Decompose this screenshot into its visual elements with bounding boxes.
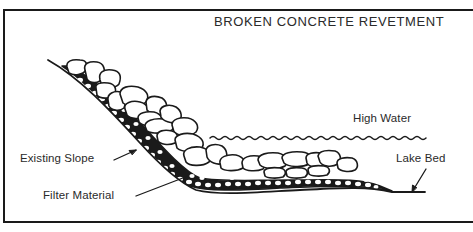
lake-bed-label: Lake Bed xyxy=(396,152,445,164)
broken-concrete-boulders xyxy=(67,60,358,178)
existing-slope-label: Existing Slope xyxy=(20,152,94,164)
high-water-label: High Water xyxy=(353,112,411,124)
high-water-line xyxy=(210,137,426,140)
existing-slope-arrowhead xyxy=(129,150,136,155)
filter-material-leader xyxy=(136,176,188,196)
filter-material-label: Filter Material xyxy=(43,189,114,201)
